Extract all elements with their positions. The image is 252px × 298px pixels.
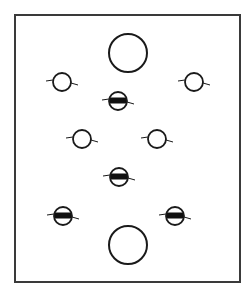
large-top-circle [109, 34, 147, 72]
right-stub-line [72, 217, 79, 219]
band-stripe [54, 213, 72, 219]
large-circles [109, 34, 147, 264]
diagram-canvas [0, 0, 252, 298]
right-stub-line [166, 140, 173, 142]
circle-layout-diagram [0, 0, 252, 298]
left-stub-line [46, 80, 53, 81]
band-stripe [110, 174, 128, 180]
open-circles [46, 73, 210, 148]
right-stub-line [128, 178, 135, 180]
large-bottom-circle [109, 226, 147, 264]
open-upper-left [46, 73, 78, 91]
band-stripe [109, 98, 127, 104]
banded-lower-left [47, 207, 79, 225]
banded-circles [47, 92, 191, 225]
banded-lower-center [103, 168, 135, 186]
left-stub-line [102, 99, 109, 100]
right-stub-line [127, 102, 134, 104]
left-stub-line [47, 214, 54, 215]
open-mid-left [66, 130, 98, 148]
left-stub-line [178, 80, 185, 81]
open-upper-left-circle [53, 73, 71, 91]
right-stub-line [184, 217, 191, 219]
open-mid-left-circle [73, 130, 91, 148]
right-stub-line [71, 83, 78, 85]
left-stub-line [66, 137, 73, 138]
diagram-frame [15, 15, 240, 282]
open-mid-right-circle [148, 130, 166, 148]
open-upper-right-circle [185, 73, 203, 91]
left-stub-line [159, 214, 166, 215]
open-mid-right [141, 130, 173, 148]
left-stub-line [103, 175, 110, 176]
right-stub-line [91, 140, 98, 142]
left-stub-line [141, 137, 148, 138]
open-upper-right [178, 73, 210, 91]
right-stub-line [203, 83, 210, 85]
banded-upper-center [102, 92, 134, 110]
band-stripe [166, 213, 184, 219]
banded-lower-right [159, 207, 191, 225]
